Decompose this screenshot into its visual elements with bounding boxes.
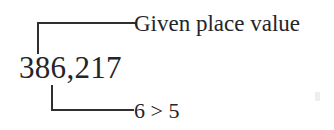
annotation-label-given-place-value: Given place value <box>134 12 300 35</box>
leader-line-top-icon <box>38 23 135 53</box>
leader-line-bottom-icon <box>52 86 133 110</box>
given-number: 386,217 <box>19 52 122 83</box>
annotation-label-comparison: 6 > 5 <box>134 100 179 122</box>
place-value-annotation-figure: 386,217 Given place value 6 > 5 <box>0 0 334 130</box>
scan-artifact <box>315 92 320 101</box>
